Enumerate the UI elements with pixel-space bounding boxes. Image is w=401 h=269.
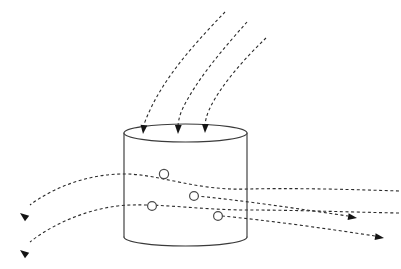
cylinder-flow-diagram xyxy=(0,0,401,269)
particle-3 xyxy=(190,192,199,201)
particle-4 xyxy=(214,212,223,221)
flow-diagram-canvas xyxy=(0,0,401,269)
particle-2 xyxy=(148,202,157,211)
particle-1 xyxy=(159,169,168,178)
